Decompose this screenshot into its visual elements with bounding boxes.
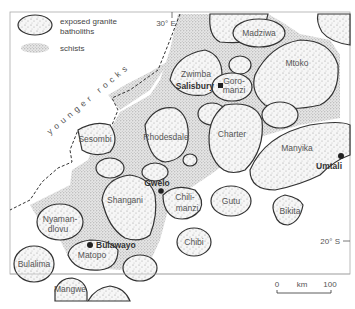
umtali-marker: [338, 153, 344, 159]
label-bulalima: Bulalima: [18, 259, 51, 269]
latitude-label: 20° S: [320, 237, 340, 246]
label-charter: Charter: [218, 129, 247, 139]
label-nyamandlovu-2: dlovu: [48, 224, 69, 234]
label-gutu: Gutu: [222, 196, 241, 206]
legend-granite-symbol: [18, 15, 52, 35]
label-rhodesdale: Rhodesdale: [143, 132, 189, 142]
label-salisbury: Salisbury: [176, 81, 215, 91]
label-mangwe: Mangwe: [54, 284, 86, 294]
batholith-unnamed-south: [88, 286, 130, 301]
label-chilimanzi-1: Chili-: [175, 192, 195, 202]
geological-map: exposed granite batholiths schists 30° E…: [0, 0, 355, 309]
label-shangani: Shangani: [107, 195, 143, 205]
label-nyamandlovu-1: Nyaman-: [43, 214, 78, 224]
label-zwimba: Zwimba: [181, 69, 211, 79]
label-umtali: Umtali: [316, 161, 342, 171]
batholith-unnamed-small-5: [183, 154, 197, 166]
label-bikita: Bikita: [280, 206, 301, 216]
scale-start-label: 0: [275, 280, 280, 289]
legend-schist-symbol: [21, 43, 49, 53]
batholith-unnamed-small-7: [123, 255, 157, 281]
scale-end-label: 100: [323, 280, 337, 289]
gwelo-marker: [158, 188, 164, 194]
scale-bar: 0 km 100: [275, 280, 337, 293]
label-sesombi: Sesombi: [78, 134, 111, 144]
batholith-unnamed-small-4: [96, 158, 124, 178]
label-chibi: Chibi: [184, 237, 203, 247]
label-madziwa: Madziwa: [242, 28, 276, 38]
salisbury-marker: [218, 83, 223, 88]
legend-granite-label-1: exposed granite: [60, 17, 117, 26]
label-bulawayo: Bulawayo: [96, 240, 136, 250]
legend-granite-label-2: batholiths: [60, 27, 94, 36]
batholith-unnamed-small-1: [229, 56, 251, 74]
label-goromanzi-2: manzi: [223, 85, 246, 95]
label-gwelo: Gwelo: [144, 178, 170, 188]
label-matopo: Matopo: [78, 250, 107, 260]
label-mtoko: Mtoko: [285, 58, 308, 68]
legend-schist-label: schists: [60, 44, 84, 53]
scale-unit-label: km: [297, 280, 308, 289]
batholith-unnamed-small-3: [262, 102, 298, 128]
label-manyika: Manyika: [281, 143, 313, 153]
label-chilimanzi-2: manzi: [176, 203, 199, 213]
longitude-label: 30° E: [156, 19, 176, 28]
bulawayo-marker: [87, 242, 93, 248]
